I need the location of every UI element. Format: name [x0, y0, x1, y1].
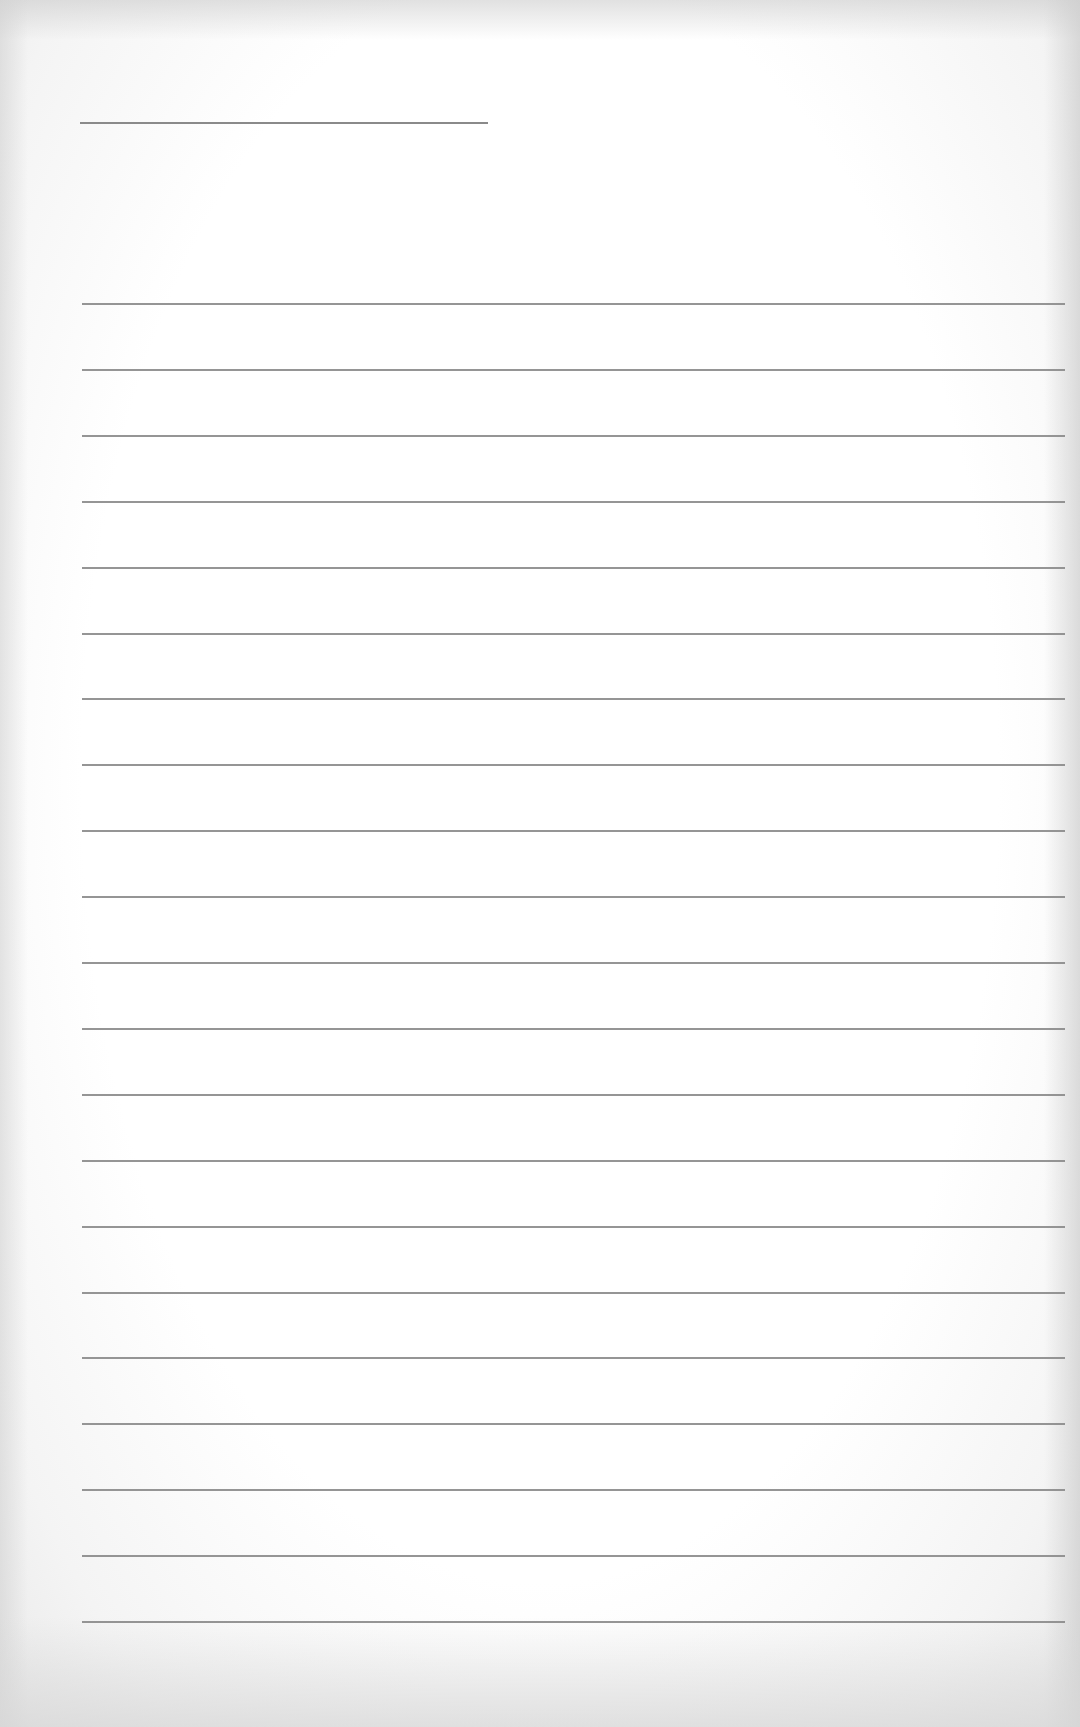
ruled-line [82, 567, 1065, 569]
ruled-lines-container [82, 0, 1065, 1727]
ruled-line [82, 1028, 1065, 1030]
ruled-line [82, 1292, 1065, 1294]
ruled-line [82, 435, 1065, 437]
ruled-line [82, 1621, 1065, 1623]
ruled-line [82, 1357, 1065, 1359]
ruled-line [82, 1226, 1065, 1228]
ruled-line [82, 962, 1065, 964]
ruled-line [82, 303, 1065, 305]
ruled-line [82, 1423, 1065, 1425]
scan-shadow-left [0, 0, 28, 1727]
ruled-line [82, 764, 1065, 766]
ruled-line [82, 896, 1065, 898]
ruled-line [82, 698, 1065, 700]
ruled-line [82, 369, 1065, 371]
ruled-line [82, 633, 1065, 635]
ruled-line [82, 1160, 1065, 1162]
ruled-line [82, 1489, 1065, 1491]
ruled-line [82, 830, 1065, 832]
ruled-line [82, 1094, 1065, 1096]
ruled-line [82, 1555, 1065, 1557]
ruled-line [82, 501, 1065, 503]
lined-paper-page [0, 0, 1080, 1727]
